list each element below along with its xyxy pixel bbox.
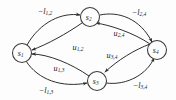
edge-s4-s3-upper-label: u3,4 <box>107 51 118 61</box>
edge-s3-s4-lower <box>106 58 154 83</box>
label-subscript: 1,2 <box>46 10 53 16</box>
label-subscript: 2,4 <box>118 32 125 38</box>
node-label-subscript: 1 <box>21 52 24 58</box>
node-label-subscript: 3 <box>96 80 99 86</box>
edge-s1-s3-lower-label: −l1,3 <box>39 86 54 96</box>
label-subscript: 1,3 <box>58 67 65 73</box>
label-subscript: 3,4 <box>110 54 118 60</box>
node-s3[interactable]: s3 <box>88 72 107 91</box>
edge-s3-s1-upper-label: u1,3 <box>54 64 65 74</box>
label-subscript: 1,2 <box>77 46 84 52</box>
label-subscript: 1,3 <box>47 89 54 95</box>
edge-s2-s1-upper-label: u1,2 <box>73 43 84 53</box>
graph-canvas: s1s2s3s4 −l1,2u1,2−l2,4u2,4−l1,3u1,3−l3,… <box>0 0 176 100</box>
edge-s2-s4-lower <box>100 14 152 42</box>
label-subscript: 3,4 <box>140 84 148 90</box>
edge-s2-s4-lower-label: −l2,4 <box>132 8 147 18</box>
network-graph-figure: s1s2s3s4 −l1,2u1,2−l2,4u2,4−l1,3u1,3−l3,… <box>0 0 176 100</box>
node-label-subscript: 4 <box>156 49 159 55</box>
node-s1[interactable]: s1 <box>13 44 32 63</box>
edge-s1-s2-lower-label: −l1,2 <box>38 7 53 17</box>
node-label-subscript: 2 <box>89 16 92 22</box>
node-s2[interactable]: s2 <box>81 8 100 27</box>
edge-s3-s4-lower-label: −l3,4 <box>133 81 148 91</box>
label-subscript: 2,4 <box>140 11 147 17</box>
node-s4[interactable]: s4 <box>148 41 167 60</box>
